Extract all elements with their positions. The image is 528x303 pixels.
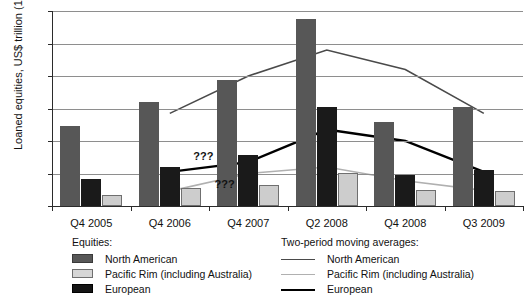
bar [60, 126, 80, 206]
bar [160, 167, 180, 206]
x-tick-label: Q4 2005 [70, 217, 112, 229]
legend-item: European [281, 281, 474, 296]
gridline [52, 44, 523, 45]
bar [338, 173, 358, 206]
legend-equities-title: Equities: [72, 236, 252, 248]
line-european-icon [281, 284, 315, 293]
y-tick-mark [48, 109, 53, 110]
y-tick-mark [48, 44, 53, 45]
plot-area: 00.10.20.30.40.50.6Q4 2005Q4 2006Q4 2007… [52, 11, 523, 206]
x-tick-label: Q4 2007 [227, 217, 269, 229]
legend-item: Pacific Rim (including Australia) [281, 266, 474, 281]
x-tick-mark [445, 206, 446, 211]
bar [238, 155, 258, 206]
legend-item-label: North American [327, 253, 399, 265]
y-tick-mark [48, 141, 53, 142]
legend-item: North American [281, 251, 474, 266]
legend-item-label: Pacific Rim (including Australia) [105, 268, 252, 280]
legend-equities: Equities: North AmericanPacific Rim (inc… [72, 236, 252, 296]
x-tick-label: Q4 2006 [149, 217, 191, 229]
bar [102, 195, 122, 206]
legend-moving-averages: Two-period moving averages: North Americ… [281, 236, 474, 296]
bar [495, 191, 515, 206]
bar [296, 19, 316, 206]
x-tick-mark [52, 206, 53, 211]
annotation-question-marks: ??? [214, 178, 234, 190]
bar [453, 107, 473, 206]
y-tick-mark [48, 11, 53, 12]
x-tick-label: Q2 2008 [306, 217, 348, 229]
annotation-question-marks: ??? [193, 150, 213, 162]
x-tick-label: Q3 2009 [463, 217, 505, 229]
y-tick-mark [48, 76, 53, 77]
y-tick-mark [48, 174, 53, 175]
bar [416, 190, 436, 206]
legend-item: Pacific Rim (including Australia) [72, 266, 252, 281]
bar [474, 170, 494, 206]
gridline [52, 11, 523, 12]
chart-figure: Loaned equities, US$ trillion (1012) 00.… [0, 0, 528, 303]
x-tick-mark [209, 206, 210, 211]
bar [395, 175, 415, 206]
swatch-european-icon [72, 284, 93, 293]
legend-item: North American [72, 251, 252, 266]
legend-item: European [72, 281, 252, 296]
bar [374, 122, 394, 207]
legend-item-label: European [105, 283, 151, 295]
y-axis-title: Loaned equities, US$ trillion (1012) [12, 0, 25, 166]
x-tick-label: Q4 2008 [384, 217, 426, 229]
y-axis-title-text: Loaned equities, US$ trillion (10 [12, 0, 24, 150]
line-north-american-icon [281, 254, 315, 263]
bar [317, 107, 337, 206]
swatch-north-american-icon [72, 254, 93, 263]
x-tick-mark [288, 206, 289, 211]
legend-item-label: European [327, 283, 373, 295]
x-tick-mark [366, 206, 367, 211]
bar [181, 188, 201, 206]
x-tick-mark [523, 206, 524, 211]
x-tick-mark [131, 206, 132, 211]
line-pacific-rim-icon [281, 269, 315, 278]
swatch-pacific-rim-icon [72, 269, 93, 278]
legend-item-label: North American [105, 253, 177, 265]
gridline [52, 76, 523, 77]
legend-moving-averages-title: Two-period moving averages: [281, 236, 474, 248]
bar [81, 179, 101, 206]
bar [139, 102, 159, 206]
bar [259, 185, 279, 206]
legend-item-label: Pacific Rim (including Australia) [327, 268, 474, 280]
